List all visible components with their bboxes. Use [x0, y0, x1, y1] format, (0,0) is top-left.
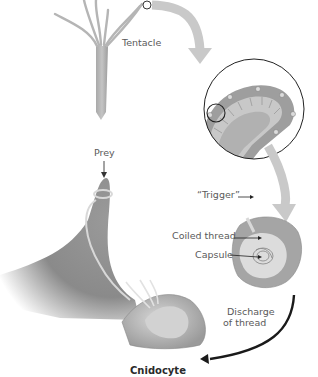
label-tentacle: Tentacle	[122, 38, 161, 48]
prey-illustration	[0, 178, 140, 320]
hydra-illustration	[55, 0, 142, 120]
label-trigger: “Trigger”	[197, 190, 240, 200]
magnified-tentacle	[190, 59, 304, 175]
cnidocyte-diagram	[0, 0, 318, 377]
zoom-arrow-2	[268, 146, 296, 222]
label-discharge-line1: Discharge	[227, 307, 275, 317]
figure-title: Cnidocyte	[130, 365, 186, 376]
label-discharge-line2: of thread	[223, 318, 266, 328]
label-prey: Prey	[94, 148, 115, 158]
label-coiled-thread: Coiled thread	[172, 231, 236, 241]
discharged-cnidocyte	[122, 280, 205, 349]
zoom-origin-circle	[143, 1, 151, 9]
label-capsule: Capsule	[195, 250, 233, 260]
undischarged-cnidocyte	[232, 217, 301, 288]
zoom-arrow-1	[152, 5, 212, 64]
